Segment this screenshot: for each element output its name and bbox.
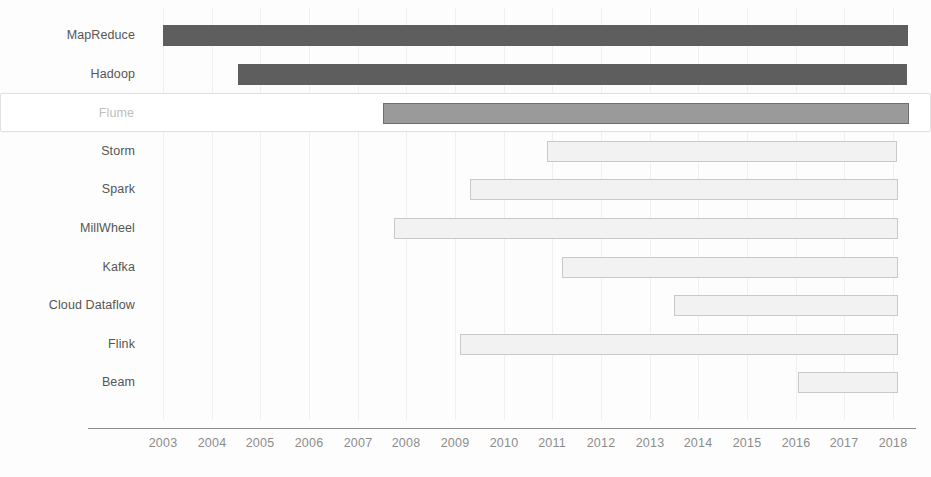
x-tick-label: 2012 — [587, 436, 616, 450]
x-tick-label: 2003 — [149, 436, 178, 450]
bar-row[interactable]: Flink — [0, 325, 931, 364]
x-tick-label: 2007 — [344, 436, 373, 450]
bar-row-label: Storm — [101, 132, 135, 171]
bar-row[interactable]: MillWheel — [0, 209, 931, 248]
bar-row-label: MapReduce — [67, 16, 135, 55]
timeline-bar[interactable] — [383, 103, 909, 124]
bar-row-label: MillWheel — [80, 209, 135, 248]
bar-row[interactable]: Kafka — [0, 248, 931, 287]
x-axis-tick-labels: 2003200420052006200720082009201020112012… — [0, 436, 931, 460]
x-tick-label: 2014 — [684, 436, 713, 450]
bar-row-selected[interactable]: Flume — [0, 93, 931, 132]
timeline-bar[interactable] — [394, 218, 898, 239]
x-tick-label: 2005 — [246, 436, 275, 450]
x-tick-label: 2017 — [830, 436, 859, 450]
x-tick-label: 2016 — [782, 436, 811, 450]
bar-row-label: Beam — [102, 363, 135, 402]
timeline-bar[interactable] — [547, 141, 897, 162]
bar-row[interactable]: Storm — [0, 132, 931, 171]
timeline-bar[interactable] — [238, 64, 907, 85]
x-tick-label: 2010 — [490, 436, 519, 450]
bar-row-label: Spark — [102, 170, 135, 209]
x-tick-label: 2006 — [295, 436, 324, 450]
x-tick-label: 2018 — [879, 436, 908, 450]
bar-row-label: Flume — [99, 94, 134, 133]
bar-row[interactable]: Cloud Dataflow — [0, 286, 931, 325]
x-tick-label: 2011 — [538, 436, 566, 450]
x-axis-line — [88, 428, 916, 429]
x-tick-label: 2004 — [198, 436, 227, 450]
plot-area: MapReduceHadoopFlumeStormSparkMillWheelK… — [0, 0, 931, 420]
timeline-bar[interactable] — [460, 334, 898, 355]
bar-row[interactable]: Beam — [0, 363, 931, 402]
bar-row-label: Kafka — [103, 248, 135, 287]
timeline-bar[interactable] — [163, 25, 908, 46]
timeline-bar[interactable] — [470, 179, 898, 200]
bar-row[interactable]: MapReduce — [0, 16, 931, 55]
bar-row-label: Cloud Dataflow — [49, 286, 135, 325]
x-tick-label: 2015 — [733, 436, 762, 450]
x-tick-label: 2008 — [392, 436, 421, 450]
bar-row-label: Flink — [108, 325, 135, 364]
bar-row-label: Hadoop — [91, 55, 135, 94]
timeline-bar[interactable] — [562, 257, 898, 278]
timeline-bar[interactable] — [674, 295, 898, 316]
bar-row[interactable]: Hadoop — [0, 55, 931, 94]
x-tick-label: 2009 — [441, 436, 470, 450]
timeline-chart: MapReduceHadoopFlumeStormSparkMillWheelK… — [0, 0, 931, 477]
x-tick-label: 2013 — [636, 436, 665, 450]
timeline-bar[interactable] — [798, 372, 898, 393]
bar-row[interactable]: Spark — [0, 170, 931, 209]
